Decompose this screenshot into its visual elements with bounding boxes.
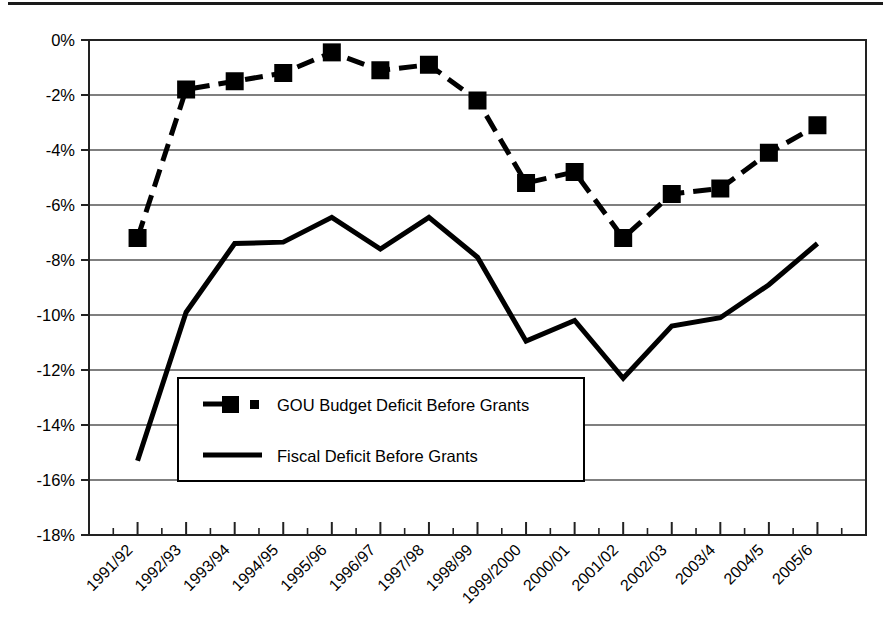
x-axis-tick-label: 1991/92 bbox=[83, 541, 136, 594]
data-point-marker bbox=[566, 163, 584, 181]
x-axis-tick-label: 2001/02 bbox=[568, 541, 621, 594]
y-axis-tick-label: -14% bbox=[36, 416, 75, 434]
y-axis-tick-labels-group: 0%-2%-4%-6%-8%-10%-12%-14%-16%-18% bbox=[36, 31, 75, 544]
y-axis-ticks-group bbox=[81, 40, 89, 535]
y-axis-tick-label: -12% bbox=[36, 361, 75, 379]
data-point-marker bbox=[323, 43, 341, 61]
x-axis-tick-label: 2005/6 bbox=[769, 541, 816, 588]
data-point-marker bbox=[663, 185, 681, 203]
figure-container: 0%-2%-4%-6%-8%-10%-12%-14%-16%-18% 1991/… bbox=[0, 0, 891, 634]
x-axis-tick-label: 1996/97 bbox=[326, 541, 379, 594]
x-axis-tick-label: 2003/4 bbox=[672, 541, 719, 588]
x-axis-tick-labels-group: 1991/921992/931993/941994/951995/961996/… bbox=[83, 541, 816, 607]
y-axis-tick-label: -10% bbox=[36, 306, 75, 324]
data-point-marker bbox=[469, 92, 487, 110]
legend-label-fiscal-deficit: Fiscal Deficit Before Grants bbox=[277, 447, 478, 465]
legend-label-gou-budget-deficit: GOU Budget Deficit Before Grants bbox=[277, 396, 529, 414]
data-point-marker bbox=[177, 81, 195, 99]
x-axis-tick-label: 2002/03 bbox=[617, 541, 670, 594]
data-point-marker bbox=[129, 229, 147, 247]
data-point-marker bbox=[614, 229, 632, 247]
data-point-marker bbox=[711, 180, 729, 198]
x-axis-tick-label: 1993/94 bbox=[180, 541, 233, 594]
legend-dash-segment-swatch bbox=[250, 400, 259, 409]
data-point-marker bbox=[760, 144, 778, 162]
chart-canvas: 0%-2%-4%-6%-8%-10%-12%-14%-16%-18% 1991/… bbox=[0, 0, 891, 634]
data-point-marker bbox=[371, 61, 389, 79]
y-axis-tick-label: -18% bbox=[36, 526, 75, 544]
x-axis-tick-label: 2004/5 bbox=[720, 541, 767, 588]
x-axis-tick-label: 1994/95 bbox=[228, 541, 281, 594]
chart-legend: GOU Budget Deficit Before Grants Fiscal … bbox=[178, 378, 584, 481]
y-axis-tick-label: 0% bbox=[51, 31, 75, 49]
y-axis-tick-label: -8% bbox=[46, 251, 76, 269]
data-point-marker bbox=[274, 64, 292, 82]
legend-box bbox=[178, 378, 584, 481]
y-axis-tick-label: -16% bbox=[36, 471, 75, 489]
y-axis-tick-label: -6% bbox=[46, 196, 76, 214]
data-point-marker bbox=[808, 116, 826, 134]
x-axis-tick-label: 2000/01 bbox=[520, 541, 573, 594]
y-axis-tick-label: -2% bbox=[46, 86, 76, 104]
y-axis-tick-label: -4% bbox=[46, 141, 76, 159]
data-point-marker bbox=[517, 174, 535, 192]
x-axis-tick-label: 1995/96 bbox=[277, 541, 330, 594]
legend-square-marker-swatch bbox=[222, 396, 239, 413]
x-axis-tick-label: 1997/98 bbox=[374, 541, 427, 594]
data-point-marker bbox=[226, 72, 244, 90]
data-point-marker bbox=[420, 56, 438, 74]
x-axis-tick-label: 1992/93 bbox=[131, 541, 184, 594]
